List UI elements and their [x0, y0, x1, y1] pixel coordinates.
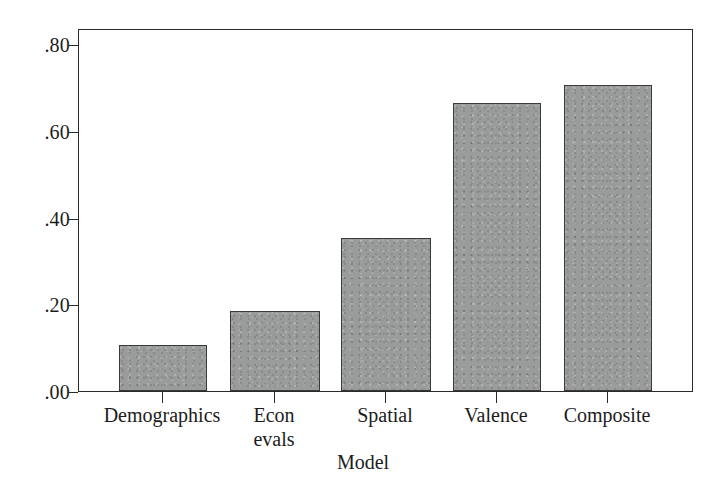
y-tick-mark [69, 392, 78, 393]
y-tick-label: .40 [44, 209, 70, 229]
y-tick-label: .20 [44, 295, 70, 315]
x-tick-label: Composite [522, 404, 692, 428]
x-tick-mark [274, 392, 275, 403]
bar-3 [341, 238, 431, 391]
x-tick-mark [607, 392, 608, 403]
plot-frame [78, 29, 693, 392]
y-tick-mark [69, 132, 78, 133]
bar-texture [454, 104, 540, 390]
plot-area [79, 30, 692, 391]
x-tick-mark [496, 392, 497, 403]
bar-5 [564, 85, 652, 391]
y-tick-label: .80 [44, 35, 70, 55]
bar-2 [230, 311, 320, 391]
bar-chart-figure: .00.20.40.60.80 DemographicsEcon evalsSp… [0, 0, 726, 489]
x-axis-title: Model [0, 452, 726, 472]
bar-1 [119, 345, 207, 391]
bar-texture [120, 346, 206, 390]
y-tick-mark [69, 45, 78, 46]
bar-texture [231, 312, 319, 390]
x-tick-mark [162, 392, 163, 403]
y-tick-mark [69, 305, 78, 306]
y-tick-label: .00 [44, 382, 70, 402]
y-tick-label: .60 [44, 122, 70, 142]
bar-4 [453, 103, 541, 391]
bar-texture [342, 239, 430, 390]
x-tick-mark [385, 392, 386, 403]
y-tick-mark [69, 219, 78, 220]
bar-texture [565, 86, 651, 390]
